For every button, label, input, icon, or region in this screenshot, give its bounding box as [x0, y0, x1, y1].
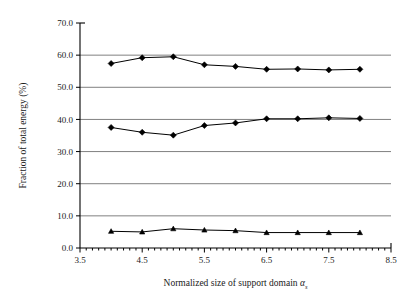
y-ticks-group: 0.010.020.030.040.050.060.070.0	[57, 18, 80, 253]
x-tick-label: 5.5	[199, 255, 211, 265]
series-lower	[109, 226, 363, 235]
y-axis-title: Fraction of total energy (%)	[18, 83, 29, 189]
data-point-marker	[264, 116, 270, 122]
data-point-marker	[139, 129, 145, 135]
data-point-marker	[108, 61, 114, 67]
y-tick-label: 70.0	[57, 18, 73, 28]
data-point-marker	[295, 66, 301, 72]
x-tick-label: 4.5	[137, 255, 149, 265]
data-point-marker	[201, 123, 207, 129]
y-tick-label: 50.0	[57, 82, 73, 92]
axes-group	[80, 23, 391, 248]
x-axis-title-text: Normalized size of support domain αs	[164, 278, 308, 290]
y-tick-label: 0.0	[62, 243, 74, 253]
data-point-marker	[326, 67, 332, 73]
x-axis-title: Normalized size of support domain αs	[164, 278, 308, 290]
y-tick-label: 40.0	[57, 115, 73, 125]
series-middle	[108, 115, 363, 138]
x-ticks-group: 3.54.55.56.57.58.5	[74, 248, 397, 265]
line-chart-plot: 0.010.020.030.040.050.060.070.03.54.55.5…	[0, 0, 414, 299]
data-point-marker	[357, 66, 363, 72]
data-point-marker	[170, 132, 176, 138]
y-tick-label: 30.0	[57, 147, 73, 157]
data-point-marker	[108, 124, 114, 130]
y-tick-label: 60.0	[57, 50, 73, 60]
data-point-marker	[357, 115, 363, 121]
x-tick-label: 6.5	[261, 255, 273, 265]
chart-figure: 0.010.020.030.040.050.060.070.03.54.55.5…	[0, 0, 414, 299]
data-point-marker	[295, 116, 301, 122]
data-point-marker	[233, 120, 239, 126]
y-tick-label: 10.0	[57, 211, 73, 221]
y-tick-label: 20.0	[57, 179, 73, 189]
data-point-marker	[233, 63, 239, 69]
x-tick-label: 8.5	[385, 255, 397, 265]
x-tick-label: 7.5	[323, 255, 335, 265]
data-point-marker	[264, 66, 270, 72]
series-upper	[108, 54, 363, 73]
x-tick-label: 3.5	[74, 255, 86, 265]
gridlines-group	[80, 55, 391, 216]
data-point-marker	[201, 62, 207, 68]
